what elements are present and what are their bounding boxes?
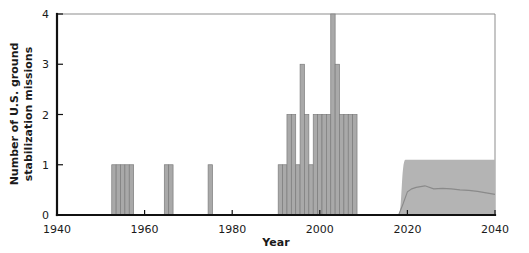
bar — [116, 165, 120, 215]
y-tick-label: 0 — [42, 209, 49, 222]
bar — [169, 165, 173, 215]
x-tick-label: 2020 — [393, 223, 421, 236]
x-tick-label: 1960 — [131, 223, 159, 236]
bar — [331, 14, 335, 215]
projection-band-group — [399, 160, 495, 215]
x-tick-label: 1940 — [43, 223, 71, 236]
x-tick-label: 2000 — [306, 223, 334, 236]
y-tick-label: 4 — [42, 8, 49, 21]
bar — [326, 115, 330, 216]
x-axis-title: Year — [261, 236, 290, 249]
x-tick-label: 2040 — [481, 223, 509, 236]
projection-band — [399, 160, 495, 215]
bar — [208, 165, 212, 215]
y-tick-label: 1 — [42, 159, 49, 172]
bar — [335, 64, 339, 215]
bar — [125, 165, 129, 215]
y-axis-ticks: 01234 — [42, 8, 63, 222]
bar — [278, 165, 282, 215]
bar — [129, 165, 133, 215]
bar — [287, 115, 291, 216]
y-tick-label: 3 — [42, 58, 49, 71]
bar — [313, 115, 317, 216]
bar-series — [112, 14, 357, 215]
bar — [318, 115, 322, 216]
bar — [309, 165, 313, 215]
bar — [353, 115, 357, 216]
chart-figure: 01234 194019601980200020202040 Year Numb… — [0, 0, 529, 253]
chart-plot-area: 01234 194019601980200020202040 Year Numb… — [0, 0, 529, 253]
bar — [348, 115, 352, 216]
bar — [304, 115, 308, 216]
bar — [112, 165, 116, 215]
bar — [322, 115, 326, 216]
y-tick-label: 2 — [42, 109, 49, 122]
bar — [291, 115, 295, 216]
y-axis-title-line2: stabilization missions — [22, 46, 35, 181]
bar — [164, 165, 168, 215]
bar — [296, 165, 300, 215]
bar — [300, 64, 304, 215]
bar — [283, 165, 287, 215]
bar — [340, 115, 344, 216]
x-tick-label: 1980 — [218, 223, 246, 236]
y-axis-title-line1: Number of U.S. ground — [8, 43, 21, 186]
bar — [344, 115, 348, 216]
bar — [121, 165, 125, 215]
